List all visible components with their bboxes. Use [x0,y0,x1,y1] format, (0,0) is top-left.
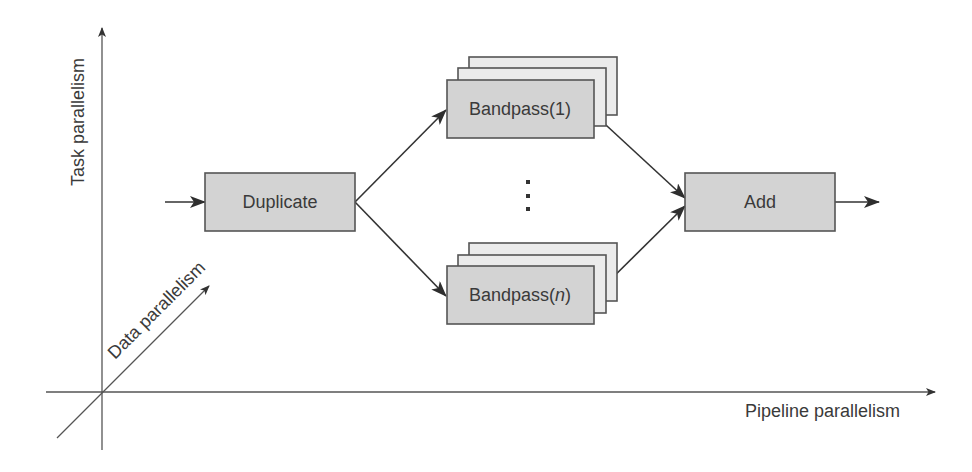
duplicate-to-bandpassn-arrow [355,202,446,296]
bandpass1-to-add-arrow [594,114,685,198]
duplicate-to-bandpass1-arrow [355,110,446,202]
bandpass-n-stack: Bandpass(n) [447,243,617,324]
bandpass-1-stack: Bandpass(1) [447,57,617,138]
pipeline-parallelism-label: Pipeline parallelism [745,401,900,421]
duplicate-label: Duplicate [242,192,317,212]
ellipsis-dots [526,180,530,211]
diagonal-axis [57,286,209,438]
bandpass-1-label: Bandpass(1) [469,99,571,119]
add-label: Add [744,192,776,212]
bandpass-n-label: Bandpass(n) [469,285,571,305]
parallelism-diagram: Task parallelism Pipeline parallelism Da… [0,0,972,472]
task-parallelism-label: Task parallelism [68,58,88,186]
duplicate-node: Duplicate [205,173,355,231]
data-parallelism-label: Data parallelism [104,257,209,362]
add-node: Add [685,173,835,231]
